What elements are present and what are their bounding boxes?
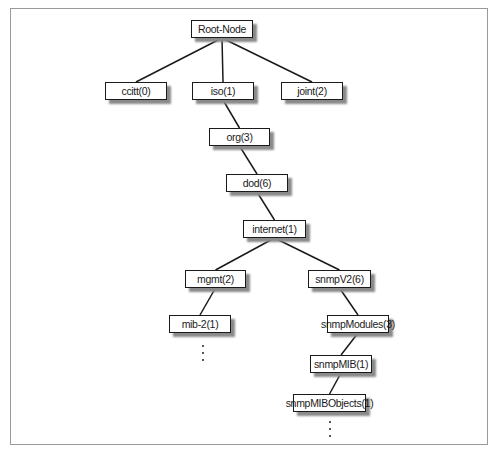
edge-snmpmodules-snmpmib (341, 333, 358, 355)
edge-org-dod (240, 146, 258, 174)
edge-root-iso (222, 38, 223, 82)
node-snmpmodules: snmpModules(3) (327, 315, 389, 333)
edge-snmpmib-snmpmibobjects (330, 373, 342, 394)
node-mib-2: mib-2(1) (169, 315, 231, 333)
node-snmpmibobjects: snmpMIBObjects(1) (293, 394, 366, 412)
node-ccitt: ccitt(0) (105, 82, 167, 100)
edge-internet-mgmt (216, 238, 275, 270)
continuation-dots-snmpmibobjects (328, 421, 332, 442)
edge-iso-org (223, 100, 240, 128)
node-joint: joint(2) (281, 82, 343, 100)
node-dod: dod(6) (226, 174, 288, 192)
edge-root-ccitt (136, 38, 222, 82)
edge-dod-internet (257, 192, 275, 220)
edge-internet-snmpv2 (275, 238, 340, 270)
edge-snmpv2-snmpmodules (340, 288, 359, 315)
node-snmpv2: snmpV2(6) (308, 270, 371, 288)
edge-root-joint (222, 38, 312, 82)
node-internet: internet(1) (243, 220, 306, 238)
node-org: org(3) (209, 128, 270, 146)
node-iso: iso(1) (192, 82, 254, 100)
edge-mgmt-mib2 (200, 288, 216, 315)
node-root: Root-Node (191, 20, 253, 38)
node-mgmt: mgmt(2) (185, 270, 246, 288)
node-snmpmib: snmpMIB(1) (310, 355, 372, 373)
continuation-dots-mib-2 (201, 345, 205, 366)
